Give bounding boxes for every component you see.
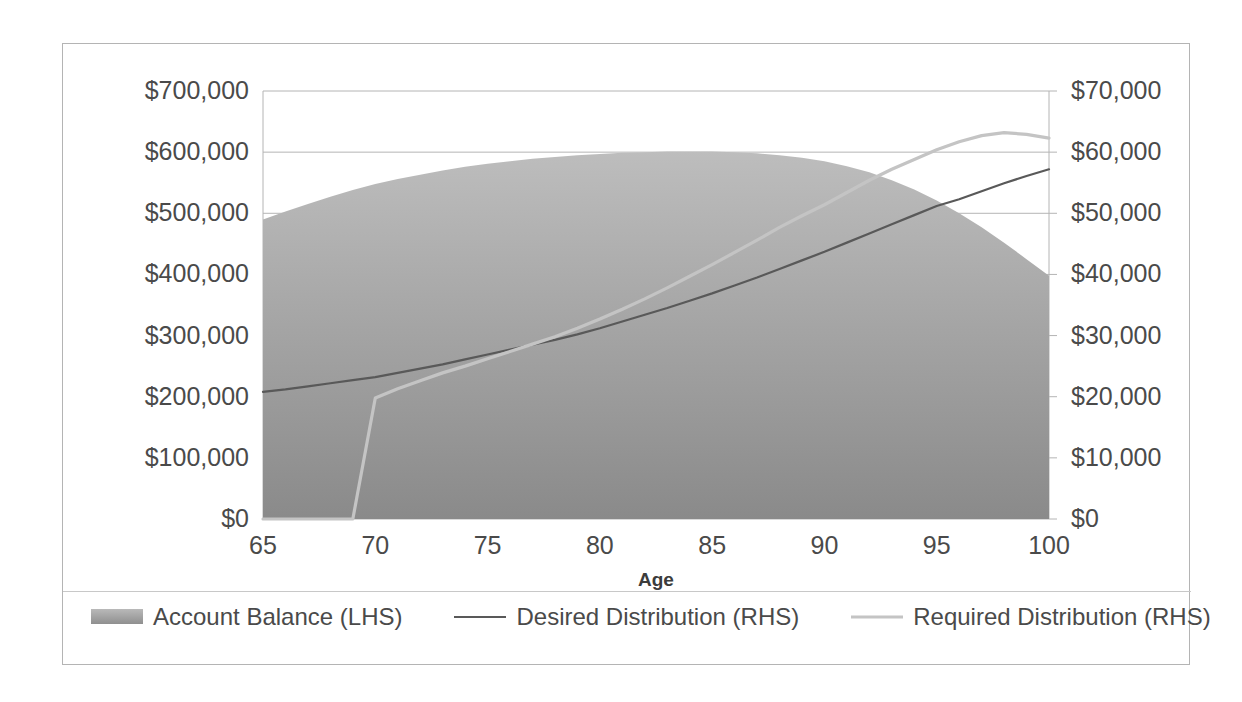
y-axis-left-tick-label: $500,000 (145, 200, 249, 225)
legend-label-desired-distribution: Desired Distribution (RHS) (516, 603, 799, 631)
y-axis-right-tick-label: $70,000 (1071, 78, 1161, 103)
legend-swatch-line-light-icon (851, 608, 903, 626)
y-axis-left-tick-label: $400,000 (145, 261, 249, 286)
y-axis-right-tick-label: $20,000 (1071, 384, 1161, 409)
y-axis-left-tick-label: $200,000 (145, 384, 249, 409)
x-axis-tick-label: 65 (223, 533, 303, 558)
legend-swatch-line-dark-icon (454, 608, 506, 626)
legend-label-account-balance: Account Balance (LHS) (153, 603, 402, 631)
x-axis-title: Age (223, 569, 1089, 591)
legend-label-required-distribution: Required Distribution (RHS) (913, 603, 1210, 631)
chart-legend: Account Balance (LHS) Desired Distributi… (63, 591, 1191, 641)
x-axis-tick-label: 85 (672, 533, 752, 558)
y-axis-left-tick-label: $100,000 (145, 445, 249, 470)
y-axis-left-tick-label: $0 (221, 506, 249, 531)
legend-swatch-area-icon (91, 609, 143, 624)
y-axis-right-tick-label: $60,000 (1071, 139, 1161, 164)
y-axis-right-tick-label: $40,000 (1071, 261, 1161, 286)
series-area-account-balance (263, 152, 1049, 519)
x-axis-tick-label: 90 (784, 533, 864, 558)
legend-item-required-distribution: Required Distribution (RHS) (851, 603, 1210, 631)
y-axis-right-tick-label: $0 (1071, 506, 1099, 531)
legend-item-account-balance: Account Balance (LHS) (91, 603, 402, 631)
x-axis-tick-label: 100 (1009, 533, 1089, 558)
y-axis-left-tick-label: $700,000 (145, 78, 249, 103)
plot-area: $0$100,000$200,000$300,000$400,000$500,0… (63, 44, 1191, 666)
chart-frame: $0$100,000$200,000$300,000$400,000$500,0… (62, 43, 1190, 665)
y-axis-right-tick-label: $30,000 (1071, 323, 1161, 348)
x-axis-tick-label: 95 (897, 533, 977, 558)
y-axis-left-tick-label: $600,000 (145, 139, 249, 164)
x-axis-tick-label: 80 (560, 533, 640, 558)
y-axis-left-tick-label: $300,000 (145, 323, 249, 348)
x-axis-tick-label: 70 (335, 533, 415, 558)
y-axis-right-tick-label: $50,000 (1071, 200, 1161, 225)
x-axis-tick-label: 75 (448, 533, 528, 558)
legend-item-desired-distribution: Desired Distribution (RHS) (454, 603, 799, 631)
y-axis-right-tick-label: $10,000 (1071, 445, 1161, 470)
